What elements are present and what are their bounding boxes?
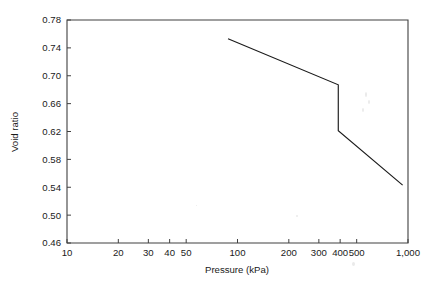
y-tick-label: 0.58 [42,154,61,165]
x-axis-ticks [67,239,408,243]
y-tick-label: 0.78 [42,14,61,25]
x-tick-label: 500 [349,247,365,258]
x-tick-label: 20 [113,247,124,258]
scan-artifact [196,205,197,206]
x-tick-label: 50 [181,247,192,258]
chart-figure: 10203040501002003004005001,000 0.460.500… [0,0,443,292]
x-axis-title: Pressure (kPa) [205,264,269,275]
x-tick-label: 10 [62,247,73,258]
y-tick-label: 0.46 [42,237,61,248]
scan-artifact [352,262,355,266]
x-tick-label: 200 [281,247,297,258]
y-axis-tick-labels: 0.460.500.540.580.620.660.700.740.78 [42,14,61,248]
y-tick-label: 0.70 [42,70,61,81]
data-curve [228,39,403,185]
y-tick-label: 0.50 [42,210,61,221]
y-tick-label: 0.66 [42,98,61,109]
scan-artifact [368,100,370,104]
x-tick-label: 100 [229,247,245,258]
scan-artifact [365,92,367,97]
y-tick-label: 0.54 [42,182,61,193]
data-series-group [228,39,403,185]
scan-artifact [296,215,298,217]
y-tick-label: 0.74 [42,42,61,53]
x-tick-label: 1,000 [396,247,420,258]
y-axis-title: Void ratio [9,112,20,152]
y-tick-label: 0.62 [42,126,61,137]
void-ratio-pressure-chart: 10203040501002003004005001,000 0.460.500… [0,0,443,292]
axes-frame [67,20,408,243]
x-tick-label: 400 [332,247,348,258]
y-axis-ticks [67,20,71,243]
plot-axes [67,20,408,243]
scan-artifact [362,108,364,112]
x-tick-label: 40 [164,247,175,258]
x-tick-label: 300 [311,247,327,258]
x-axis-tick-labels: 10203040501002003004005001,000 [62,247,420,258]
x-tick-label: 30 [143,247,154,258]
